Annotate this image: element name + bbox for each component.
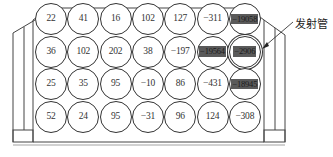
cell-value: 127 — [173, 14, 187, 24]
grid-cell: 22 — [35, 3, 67, 35]
cell-value: 86 — [176, 79, 185, 89]
cell-value: 36 — [46, 47, 55, 57]
cell-value: 35 — [79, 79, 88, 89]
cell-value: 202 — [109, 47, 123, 57]
cell-value: 16 — [111, 14, 120, 24]
grid-cell: 52 — [35, 101, 67, 133]
grid-cell: 38 — [132, 36, 164, 68]
grid-cell: −308 — [229, 101, 261, 133]
cell-value: 38 — [143, 47, 152, 57]
grid-cell: 127 — [164, 3, 196, 35]
cell-value: 24 — [79, 112, 88, 122]
cell-value: 52 — [46, 112, 55, 122]
grid-cell: 25 — [35, 68, 67, 100]
cell-value: 124 — [206, 112, 220, 122]
cell-value: 102 — [76, 47, 90, 57]
grid-cell: 202 — [100, 36, 132, 68]
grid-cell: 95 — [100, 101, 132, 133]
cell-value: −31 — [141, 112, 155, 122]
grid-cell: 102 — [67, 36, 99, 68]
cell-value: −10 — [141, 79, 155, 89]
emitter-tube-cell: −2906 — [229, 36, 261, 68]
cell-value: 22 — [46, 14, 55, 24]
cell-value: 102 — [141, 14, 155, 24]
cell-value: −431 — [203, 79, 222, 89]
grid-cell: 102 — [132, 3, 164, 35]
grid-cell: −197 — [164, 36, 196, 68]
grid-cell: 24 — [67, 101, 99, 133]
cell-value: 25 — [46, 79, 55, 89]
grid-cell: 95 — [100, 68, 132, 100]
grid-cell: −18945 — [229, 68, 261, 100]
cell-value: 41 — [79, 14, 88, 24]
cell-value: −197 — [171, 47, 190, 57]
grid-cell: −311 — [197, 3, 229, 35]
cell-value: 95 — [111, 79, 120, 89]
cell-value: 96 — [176, 112, 185, 122]
grid-cell: −31 — [132, 101, 164, 133]
grid-cell: 16 — [100, 3, 132, 35]
cell-value: −311 — [203, 14, 221, 24]
grid-cell: 124 — [197, 101, 229, 133]
cell-value: 95 — [111, 112, 120, 122]
grid-cell: −19058 — [229, 3, 261, 35]
grid-cell: −431 — [197, 68, 229, 100]
emitter-label: 发射管 — [295, 15, 328, 31]
grid-cell: −19564 — [197, 36, 229, 68]
cell-value: −19058 — [231, 14, 258, 25]
cell-value: −2906 — [233, 46, 256, 57]
cell-value: −18945 — [231, 79, 258, 90]
grid-cell: 36 — [35, 36, 67, 68]
leader-line — [265, 22, 293, 46]
grid-cell: 96 — [164, 101, 196, 133]
cell-value: −19564 — [199, 46, 226, 57]
grid-cell: −10 — [132, 68, 164, 100]
cell-value: −308 — [235, 112, 254, 122]
